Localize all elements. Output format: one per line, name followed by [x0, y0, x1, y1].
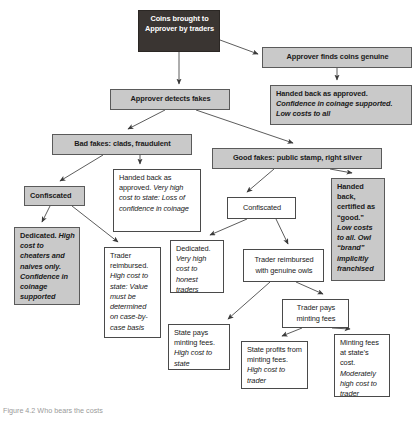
node-label-part: High cost to trader [247, 365, 285, 384]
node-confiscated-good[interactable]: Confiscated [227, 197, 296, 219]
figure-caption: Figure 4.2 Who bears the costs [3, 406, 303, 415]
node-label-part: High cost to cheaters and naives only. C… [20, 231, 75, 301]
node-label: Bad fakes: clads, fraudulent [74, 139, 170, 149]
node-label: Coins brought to Approver by traders [145, 14, 214, 33]
node-trader-reimbursed-genuine-owls[interactable]: Trader reimbursed with genuine owls [243, 249, 324, 282]
node-bad-fakes[interactable]: Bad fakes: clads, fraudulent [52, 134, 192, 155]
node-label-part: Dedicated. [176, 244, 211, 253]
node-handed-back-approved-genuine[interactable]: Handed back as approved. Confidence in c… [270, 85, 412, 125]
node-good-fakes[interactable]: Good fakes: public stamp, right silver [212, 148, 382, 169]
node-label-part: State pays minting fees. [174, 328, 215, 347]
node-label: Approver finds coins genuine [286, 52, 388, 62]
node-label-part: Moderately high cost to trader [340, 369, 377, 397]
node-confiscated-bad[interactable]: Confiscated [24, 186, 85, 206]
node-label: Trader reimbursed with genuine owls [249, 255, 319, 275]
node-approver-finds-genuine[interactable]: Approver finds coins genuine [262, 47, 412, 68]
node-label-part: Very high cost to honest traders [176, 254, 206, 293]
node-label: Good fakes: public stamp, right silver [233, 153, 362, 163]
node-label-part: Trader reimbursed. [110, 251, 148, 270]
node-minting-fees-at-states-cost[interactable]: Minting fees at state’s cost. Moderately… [334, 334, 390, 397]
node-label-part: Dedicated. [20, 231, 59, 240]
node-label-part: Minting fees at state’s cost. [340, 338, 379, 367]
node-label-part: Handed back as approved. [276, 89, 368, 98]
node-state-profits-minting-fees[interactable]: State profits from minting fees. High co… [241, 341, 308, 389]
node-label-part: High cost to state [174, 348, 212, 367]
node-trader-reimbursed-case-by-case[interactable]: Trader reimbursed. High cost to state: V… [104, 247, 161, 338]
node-label: Confiscated [243, 203, 281, 213]
node-label: Approver detects fakes [131, 94, 211, 104]
node-trader-pays-minting-fees[interactable]: Trader pays minting fees [282, 299, 349, 328]
flowchart-canvas: Coins brought to Approver by traders App… [0, 0, 414, 423]
node-approver-detects-fakes[interactable]: Approver detects fakes [110, 89, 230, 110]
node-label-part: High cost to state: Value must be determ… [110, 271, 148, 331]
node-handed-back-certified-good[interactable]: Handed back, certified as “good.” Low co… [331, 178, 385, 281]
node-dedicated-honest-traders[interactable]: Dedicated. Very high cost to honest trad… [170, 240, 224, 293]
node-label-part: Handed back, certified as “good.” [337, 182, 375, 222]
node-label: Confiscated [30, 191, 71, 201]
node-state-pays-minting-fees[interactable]: State pays minting fees. High cost to st… [168, 324, 230, 370]
node-handed-back-high-cost-state[interactable]: Handed back as approved. Very high cost … [113, 169, 201, 232]
node-dedicated-cheaters-naives[interactable]: Dedicated. High cost to cheaters and nai… [14, 227, 80, 305]
node-label-part: Confidence in coinage supported. Low cos… [276, 99, 393, 118]
node-coins-brought[interactable]: Coins brought to Approver by traders [138, 10, 220, 52]
node-label-part: Low costs to all. Owl “brand” implicitly… [337, 223, 374, 273]
node-label-part: State profits from minting fees. [247, 345, 302, 364]
node-label: Trader pays minting fees [288, 303, 344, 323]
